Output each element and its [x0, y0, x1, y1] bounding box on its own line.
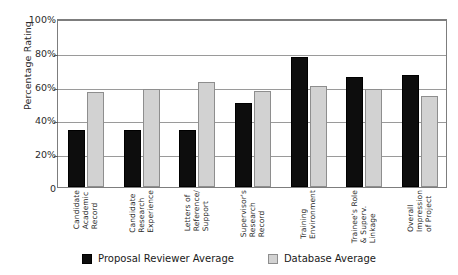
x-category-label-line: Letters of: [183, 190, 192, 231]
x-category-label-line: Experience: [145, 190, 154, 233]
bar-group: [392, 21, 448, 187]
bar-database-average: [198, 82, 215, 187]
x-category-label: CandidateResearchExperience: [112, 190, 170, 248]
y-tick-label: 20%: [22, 149, 56, 160]
chart-legend: Proposal Reviewer AverageDatabase Averag…: [0, 253, 458, 264]
x-category-label-lines: Supervisor'sResearchRecord: [239, 190, 266, 237]
x-category-label-line: Research: [248, 190, 257, 237]
x-category-label-lines: OverallImpressionof Project: [406, 190, 433, 232]
x-category-label-line: Overall: [406, 190, 415, 232]
plot-area: [57, 19, 447, 188]
legend-entry[interactable]: Database Average: [268, 253, 376, 264]
x-category-label-line: Candidate: [71, 190, 80, 229]
x-category-label: Letters ofReference/Support: [167, 190, 225, 248]
bar-database-average: [310, 86, 327, 187]
x-category-label-line: Record: [89, 190, 98, 229]
bar-group: [337, 21, 393, 187]
y-axis-tick-labels: 100%80%60%40%20%0: [14, 0, 56, 275]
bar-database-average: [254, 91, 271, 187]
bar-database-average: [421, 96, 438, 187]
bar-database-average: [365, 89, 382, 187]
bar-group: [225, 21, 281, 187]
bar-group: [281, 21, 337, 187]
x-category-label: OverallImpressionof Project: [390, 190, 448, 248]
bar-group: [58, 21, 114, 187]
x-category-label-line: Training: [299, 190, 308, 239]
y-tick-label: 100%: [22, 14, 56, 25]
x-category-label-lines: Letters ofReference/Support: [183, 190, 210, 231]
y-tick-label: 60%: [22, 81, 56, 92]
x-axis-category-labels: CandidateAcademicRecordCandidateResearch…: [57, 190, 447, 248]
x-category-label: Trainee's Role& Superv.Linkage: [334, 190, 392, 248]
x-category-label-line: Support: [201, 190, 210, 231]
x-category-label-line: of Project: [424, 190, 433, 232]
x-category-label: TrainingEnvironment: [279, 190, 337, 248]
bar-reviewer-average: [291, 57, 308, 187]
x-category-label-line: Record: [257, 190, 266, 237]
x-category-label-line: Research: [136, 190, 145, 233]
bar-database-average: [87, 92, 104, 187]
bar-group: [169, 21, 225, 187]
bar-group: [114, 21, 170, 187]
legend-swatch-database: [268, 254, 278, 264]
y-tick-label: 0: [22, 183, 56, 194]
bar-chart: Percentage Rating 100%80%60%40%20%0 Cand…: [0, 0, 458, 275]
x-category-label-lines: CandidateResearchExperience: [127, 190, 154, 233]
x-category-label-line: Environment: [308, 190, 317, 239]
x-category-label-lines: TrainingEnvironment: [299, 190, 317, 239]
x-category-label-lines: CandidateAcademicRecord: [71, 190, 98, 229]
x-category-label-line: Linkage: [368, 190, 377, 243]
bar-reviewer-average: [124, 130, 141, 187]
x-category-label: CandidateAcademicRecord: [56, 190, 114, 248]
legend-label: Proposal Reviewer Average: [98, 253, 234, 264]
x-category-label-line: Academic: [80, 190, 89, 229]
bar-reviewer-average: [402, 75, 419, 187]
bar-reviewer-average: [346, 77, 363, 187]
x-category-label: Supervisor'sResearchRecord: [223, 190, 281, 248]
legend-entry[interactable]: Proposal Reviewer Average: [82, 253, 234, 264]
y-tick-label: 40%: [22, 115, 56, 126]
chart-title: [0, 0, 458, 2]
x-category-label-line: Impression: [415, 190, 424, 232]
bar-reviewer-average: [179, 130, 196, 187]
x-category-label-line: Candidate: [127, 190, 136, 233]
legend-swatch-reviewer: [82, 254, 92, 264]
x-category-label-line: Supervisor's: [239, 190, 248, 237]
legend-label: Database Average: [284, 253, 376, 264]
bar-database-average: [143, 89, 160, 187]
bar-reviewer-average: [68, 130, 85, 187]
x-category-label-line: Reference/: [192, 190, 201, 231]
x-category-label-lines: Trainee's Role& Superv.Linkage: [350, 190, 377, 243]
bar-series-container: [58, 21, 446, 187]
y-tick-label: 80%: [22, 47, 56, 58]
bar-reviewer-average: [235, 103, 252, 188]
